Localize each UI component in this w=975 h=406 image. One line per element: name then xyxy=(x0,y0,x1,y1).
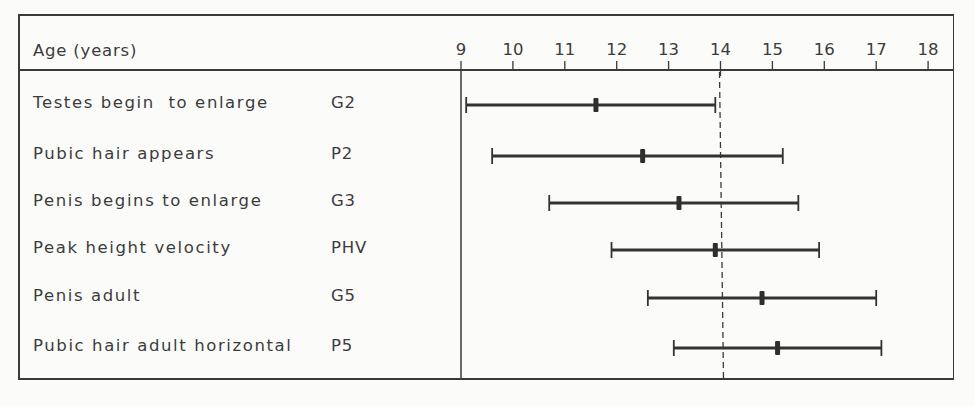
range-bar-g3 xyxy=(549,195,798,211)
x-ticks xyxy=(461,61,928,76)
range-bar-p5 xyxy=(674,340,882,356)
range-bar-phv xyxy=(612,242,820,258)
range-bar-p2 xyxy=(492,148,783,164)
range-bar-g2 xyxy=(466,97,715,113)
range-bar-g5 xyxy=(648,290,876,306)
range-chart xyxy=(0,0,975,406)
range-bars xyxy=(466,97,881,356)
reference-line-dashed xyxy=(720,72,724,379)
